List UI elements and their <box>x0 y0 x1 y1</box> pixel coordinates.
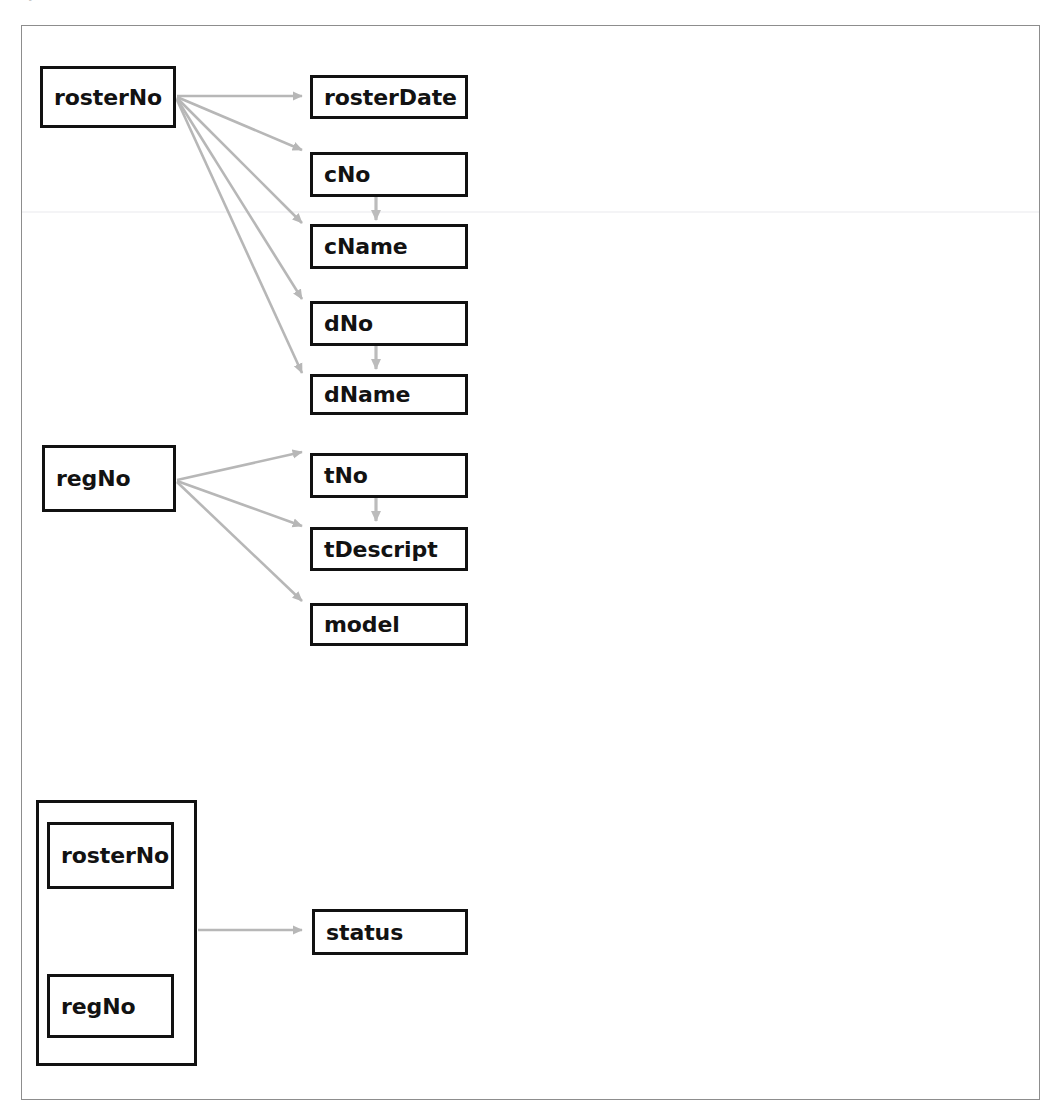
dependent-box-cNo[interactable]: cNo <box>310 152 468 197</box>
dependent-label: rosterDate <box>324 85 457 110</box>
dependent-box-dName[interactable]: dName <box>310 374 468 415</box>
arrow-rosterNo-cName <box>177 98 302 223</box>
arrow-regNo-tDescript <box>177 481 302 526</box>
dependent-box-dNo[interactable]: dNo <box>310 301 468 346</box>
arrow-regNo-tNo <box>177 452 302 480</box>
dependent-label: cNo <box>324 162 370 187</box>
dependent-label: tDescript <box>324 537 438 562</box>
dependent-label: dNo <box>324 311 373 336</box>
dependent-box-rosterDate[interactable]: rosterDate <box>310 75 468 119</box>
dependent-box-tNo[interactable]: tNo <box>310 453 468 498</box>
arrow-regNo-model <box>177 482 302 601</box>
dependent-label: model <box>324 612 400 637</box>
determinant-label: regNo <box>56 466 131 491</box>
arrow-rosterNo-dNo <box>177 99 302 299</box>
composite-member-label: regNo <box>61 994 136 1019</box>
determinant-box-regNo[interactable]: regNo <box>42 445 176 512</box>
dependent-label: cName <box>324 234 408 259</box>
determinant-box-rosterNo[interactable]: rosterNo <box>40 66 176 128</box>
dependent-box-status[interactable]: status <box>312 909 468 955</box>
dependent-box-tDescript[interactable]: tDescript <box>310 527 468 571</box>
dependent-box-cName[interactable]: cName <box>310 224 468 269</box>
composite-member-label: rosterNo <box>61 843 169 868</box>
dependent-box-model[interactable]: model <box>310 603 468 646</box>
composite-member-box-regNo[interactable]: regNo <box>47 974 174 1038</box>
determinant-label: rosterNo <box>54 85 162 110</box>
composite-member-box-rosterNo[interactable]: rosterNo <box>47 822 174 889</box>
dependent-label: tNo <box>324 463 368 488</box>
diagram-page: , <box>0 0 1060 1111</box>
dependent-label: dName <box>324 382 410 407</box>
dependent-label: status <box>326 920 403 945</box>
